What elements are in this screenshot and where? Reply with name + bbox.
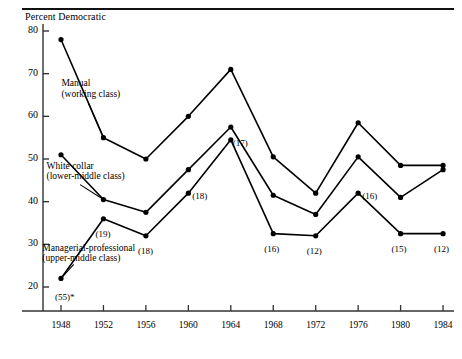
data-point xyxy=(101,216,106,221)
y-tick-label: 40 xyxy=(18,195,38,206)
y-tick-label: 30 xyxy=(18,237,38,248)
y-tick-label: 70 xyxy=(18,67,38,78)
x-tick-label: 1960 xyxy=(168,320,208,330)
point-value-label: (15) xyxy=(392,244,407,254)
data-point xyxy=(440,167,445,172)
data-point xyxy=(186,191,191,196)
y-tick-label: 20 xyxy=(18,280,38,291)
data-point xyxy=(356,120,361,125)
point-value-label: (12) xyxy=(307,246,322,256)
leader-line xyxy=(61,264,74,278)
data-point xyxy=(313,212,318,217)
series-line-0 xyxy=(61,40,443,194)
chart-figure: Percent Democratic 20304050607080 194819… xyxy=(0,0,462,359)
x-tick-label: 1964 xyxy=(211,320,251,330)
x-tick-label: 1948 xyxy=(41,320,81,330)
series-annotation: Manual xyxy=(61,78,90,89)
data-point xyxy=(398,231,403,236)
point-value-label: (17) xyxy=(233,138,248,148)
series-annotation: (lower-middle class) xyxy=(47,171,125,182)
data-point xyxy=(356,154,361,159)
data-point xyxy=(313,233,318,238)
data-point xyxy=(58,152,63,157)
data-point xyxy=(228,67,233,72)
x-tick-label: 1976 xyxy=(338,320,378,330)
point-value-label: (55)* xyxy=(55,292,75,302)
y-tick-label: 80 xyxy=(18,24,38,35)
leader-line xyxy=(89,104,104,138)
data-point xyxy=(271,154,276,159)
data-point xyxy=(143,156,148,161)
x-tick-label: 1952 xyxy=(83,320,123,330)
point-value-label: (18) xyxy=(138,246,153,256)
point-value-label: (12) xyxy=(434,244,449,254)
data-point xyxy=(271,193,276,198)
y-tick-label: 60 xyxy=(18,109,38,120)
x-tick-label: 1972 xyxy=(296,320,336,330)
data-point xyxy=(271,231,276,236)
x-tick-label: 1980 xyxy=(381,320,421,330)
data-point xyxy=(228,124,233,129)
data-point xyxy=(58,37,63,42)
data-point xyxy=(398,163,403,168)
data-point xyxy=(313,191,318,196)
data-point xyxy=(440,231,445,236)
data-point xyxy=(143,210,148,215)
point-value-label: (16) xyxy=(362,191,377,201)
series-annotation: White collar xyxy=(47,161,94,172)
x-tick-label: 1984 xyxy=(423,320,462,330)
x-tick-label: 1956 xyxy=(126,320,166,330)
data-point xyxy=(143,233,148,238)
data-point xyxy=(356,191,361,196)
x-tick-label: 1968 xyxy=(253,320,293,330)
point-value-label: (19) xyxy=(95,229,110,239)
point-value-label: (18) xyxy=(192,191,207,201)
point-value-label: (16) xyxy=(264,244,279,254)
data-point xyxy=(186,167,191,172)
series-annotation: (upper-middle class) xyxy=(42,253,120,264)
data-point xyxy=(398,195,403,200)
series-annotation: (working class) xyxy=(61,89,120,100)
y-tick-label: 50 xyxy=(18,152,38,163)
data-point xyxy=(186,114,191,119)
